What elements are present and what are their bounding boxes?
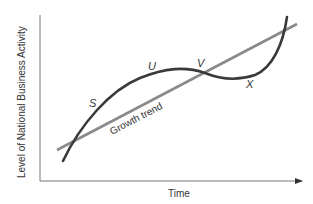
y-axis-label: Level of National Business Activity bbox=[16, 26, 27, 178]
point-label-u: U bbox=[148, 60, 156, 72]
point-label-s: S bbox=[89, 97, 97, 109]
point-label-v: V bbox=[197, 57, 206, 69]
point-label-x: X bbox=[245, 78, 254, 90]
growth-trend-line bbox=[57, 24, 297, 150]
x-axis-label: Time bbox=[168, 188, 190, 199]
business-cycle-diagram: S U V X Growth trend Level of National B… bbox=[0, 0, 313, 204]
